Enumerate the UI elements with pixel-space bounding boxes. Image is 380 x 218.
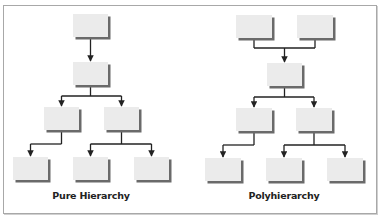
hierarchy-diagrams [0, 0, 380, 218]
node-box [44, 107, 82, 133]
node-box [266, 158, 305, 184]
node-box [327, 158, 366, 184]
pure-hierarchy-label: Pure Hierarchy [52, 190, 129, 201]
node-box [236, 108, 275, 134]
node-box [104, 107, 142, 133]
node-box [236, 15, 275, 41]
node-box [73, 14, 111, 40]
node-box [297, 15, 336, 41]
pure-hierarchy-diagram [13, 14, 172, 183]
node-box [267, 63, 305, 89]
node-box [73, 62, 111, 88]
polyhierarchy-label: Polyhierarchy [248, 190, 319, 201]
node-box [296, 108, 335, 134]
polyhierarchy-diagram [205, 15, 366, 184]
node-box [13, 157, 51, 183]
node-box [205, 158, 244, 184]
node-box [73, 157, 111, 183]
node-box [134, 157, 172, 183]
